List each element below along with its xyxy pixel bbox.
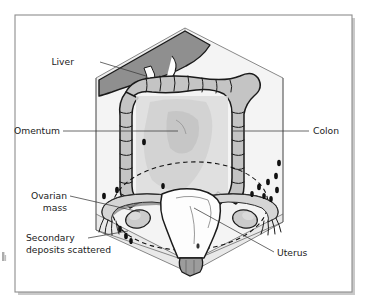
label-ovarian-mass-line1: Ovarian	[31, 190, 67, 201]
label-secondary-line2: deposits scattered	[26, 244, 111, 255]
label-omentum: Omentum	[14, 125, 60, 136]
label-uterus: Uterus	[277, 247, 308, 258]
figure-canvas: Liver Omentum Colon Ovarian mass Seconda…	[0, 0, 367, 303]
label-liver: Liver	[51, 56, 74, 67]
page-edge-artifact	[2, 252, 6, 261]
label-secondary-line1: Secondary	[26, 232, 75, 243]
label-ovarian-mass-line2: mass	[43, 202, 67, 213]
label-colon: Colon	[313, 125, 339, 136]
